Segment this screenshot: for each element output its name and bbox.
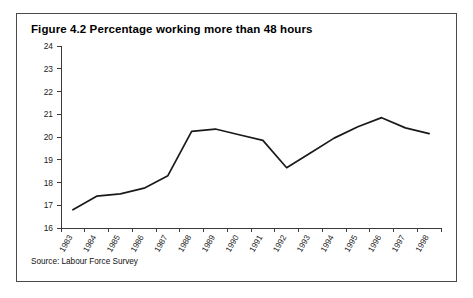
y-tick-label: 18 (44, 178, 54, 188)
x-tick-label: 1993 (295, 233, 312, 254)
data-series (73, 118, 429, 210)
x-tick-label: 1995 (343, 233, 360, 254)
x-tick-label: 1989 (200, 233, 217, 254)
x-tick-label: 1997 (390, 233, 407, 254)
series-line (73, 118, 429, 210)
y-tick-label: 19 (44, 155, 54, 165)
x-tick-label: 1996 (366, 233, 383, 254)
y-tick-label: 17 (44, 200, 54, 210)
y-tick-label: 16 (44, 223, 54, 233)
figure-source-note: Source: Labour Force Survey (31, 257, 138, 266)
figure-container: Figure 4.2 Percentage working more than … (16, 13, 457, 282)
x-tick-label: 1983 (58, 233, 75, 254)
x-tick-label: 1991 (248, 233, 265, 254)
y-tick-label: 22 (44, 87, 54, 97)
x-tick-label: 1990 (224, 233, 241, 254)
y-tick-label: 20 (44, 132, 54, 142)
y-tick-label: 24 (44, 41, 54, 51)
x-tick-label: 1998 (414, 233, 431, 254)
figure-title: Figure 4.2 Percentage working more than … (31, 23, 313, 35)
x-tick-label: 1994 (319, 233, 336, 254)
y-axis: 161718192021222324 (44, 41, 61, 233)
x-tick-label: 1987 (153, 233, 170, 254)
x-tick-label: 1984 (81, 233, 98, 254)
x-tick-label: 1986 (129, 233, 146, 254)
y-tick-label: 23 (44, 64, 54, 74)
x-tick-label: 1988 (176, 233, 193, 254)
line-chart: 161718192021222324 198319841985198619871… (17, 40, 456, 255)
x-tick-label: 1985 (105, 233, 122, 254)
x-axis: 1983198419851986198719881989199019911992… (58, 228, 441, 254)
x-tick-label: 1992 (271, 233, 288, 254)
y-tick-label: 21 (44, 109, 54, 119)
